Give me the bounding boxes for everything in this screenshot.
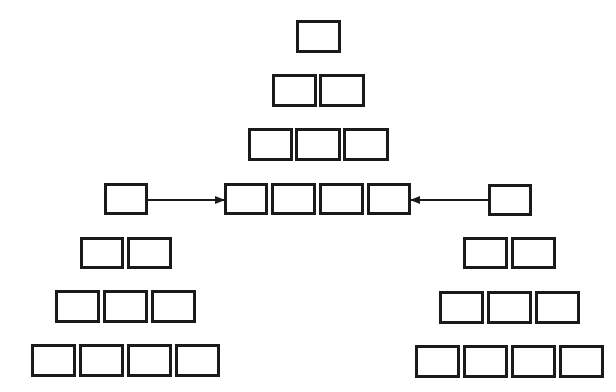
center-pyramid-row-2 <box>274 76 364 106</box>
diagram-box <box>105 292 147 322</box>
right-pyramid <box>417 186 603 377</box>
diagram-box <box>537 293 579 323</box>
diagram-box <box>129 239 171 268</box>
diagram-box <box>321 76 364 106</box>
left-pyramid-row-1 <box>106 185 147 214</box>
diagram-box <box>129 346 171 376</box>
center-pyramid-row-3 <box>250 130 388 160</box>
diagram-canvas <box>0 0 616 392</box>
right-pyramid-row-3 <box>441 293 579 323</box>
diagram-box <box>250 130 292 160</box>
diagram-box <box>321 185 363 214</box>
right-pyramid-row-2 <box>465 239 555 268</box>
diagram-box <box>57 292 99 322</box>
diagram-box <box>513 239 555 268</box>
diagram-box <box>274 76 316 106</box>
diagram-box <box>345 130 388 160</box>
diagram-box <box>369 185 410 214</box>
left-pyramid-row-3 <box>57 292 195 322</box>
left-pyramid-row-4 <box>33 346 219 376</box>
diagram-box <box>106 185 147 214</box>
diagram-box <box>490 186 531 215</box>
diagram-box <box>153 292 195 322</box>
center-pyramid-row-1 <box>298 22 340 52</box>
center-pyramid <box>226 22 410 214</box>
diagram-box <box>465 239 507 268</box>
diagram-box <box>513 347 555 377</box>
diagram-box <box>226 185 267 214</box>
diagram-box <box>417 347 459 377</box>
diagram-box <box>441 293 483 323</box>
left-pyramid <box>33 185 219 376</box>
diagram-box <box>297 130 340 160</box>
left-pyramid-row-2 <box>82 239 171 268</box>
diagram-box <box>298 22 340 52</box>
pyramid-diagram <box>0 0 616 392</box>
diagram-box <box>561 347 603 377</box>
center-pyramid-row-4 <box>226 185 410 214</box>
diagram-box <box>465 347 507 377</box>
diagram-box <box>82 239 123 268</box>
diagram-box <box>81 346 123 376</box>
diagram-box <box>33 346 75 376</box>
right-pyramid-row-4 <box>417 347 603 377</box>
diagram-box <box>177 346 219 376</box>
right-pyramid-row-1 <box>490 186 531 215</box>
diagram-box <box>273 185 315 214</box>
box-groups <box>33 22 603 377</box>
diagram-box <box>489 293 531 323</box>
